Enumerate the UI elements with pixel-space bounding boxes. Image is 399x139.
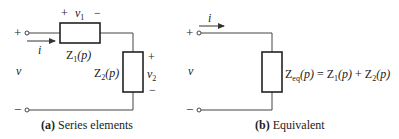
current-label-a: i [38, 43, 41, 57]
voltage-label-a: v [16, 64, 22, 78]
terminal-plus-sign-b: + [186, 25, 193, 40]
caption-a: (a) Series elements [41, 118, 133, 132]
v1-plus-sign: + [61, 6, 68, 20]
panel-a-series-elements: + − i v + v1 − Z1(p) Z2(p) + v2 − (a) Se… [14, 6, 156, 132]
z2-bottom-wire [29, 92, 133, 110]
v1-label: v1 [75, 6, 84, 22]
z1-to-z2-wire [100, 33, 133, 52]
v2-label: v2 [147, 67, 156, 83]
v1-minus-sign: − [94, 6, 101, 20]
equivalent-impedance-equation: Zeq(p) = Z1(p) + Z2(p) [285, 67, 390, 83]
voltage-label-b: v [188, 64, 194, 78]
panel-b-equivalent: + − i v Zeq(p) = Z1(p) + Z2(p) (b) Equiv… [186, 11, 390, 132]
top-wire-b [201, 33, 272, 52]
caption-b: (b) Equivalent [255, 118, 325, 132]
terminal-minus-sign-a: − [14, 102, 21, 117]
terminal-plus-sign-a: + [14, 25, 21, 40]
current-label-b: i [208, 11, 211, 25]
z2-label: Z2(p) [94, 66, 119, 82]
terminal-top-a [25, 31, 29, 35]
terminal-minus-sign-b: − [186, 102, 193, 117]
bottom-wire-b [201, 92, 272, 110]
terminal-bottom-a [25, 108, 29, 112]
z1-label: Z1(p) [66, 48, 91, 64]
terminal-top-b [197, 31, 201, 35]
impedance-z1-box [60, 23, 100, 43]
v2-plus-sign: + [148, 50, 155, 64]
terminal-bottom-b [197, 108, 201, 112]
v2-minus-sign: − [149, 83, 156, 97]
circuit-diagram: + − i v + v1 − Z1(p) Z2(p) + v2 − (a) Se… [0, 0, 399, 139]
impedance-z2-box [123, 52, 143, 92]
impedance-zeq-box [262, 52, 282, 92]
